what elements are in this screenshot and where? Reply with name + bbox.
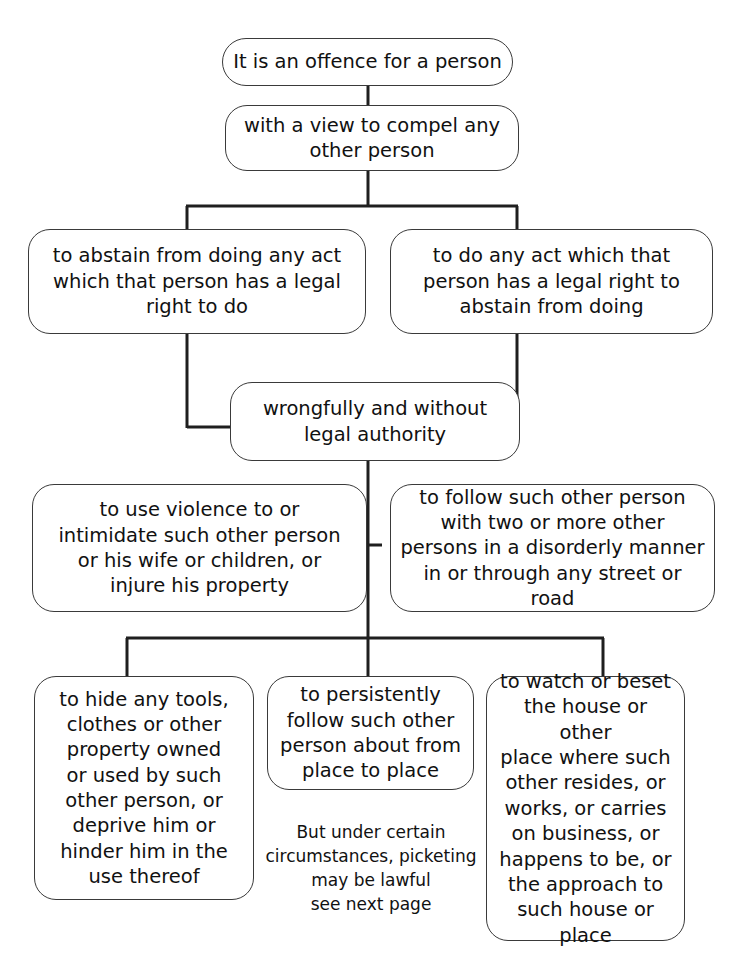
node-watch-or-beset[interactable]: to watch or beset the house or other pla… (486, 676, 685, 941)
node-use-violence[interactable]: to use violence to or intimidate such ot… (32, 484, 367, 612)
node-hide-tools[interactable]: to hide any tools, clothes or other prop… (34, 676, 254, 900)
node-abstain-from-doing-label: to abstain from doing any act which that… (53, 243, 341, 319)
node-persistently-follow-label: to persistently follow such other person… (280, 682, 461, 783)
node-offence[interactable]: It is an offence for a person (222, 38, 513, 86)
node-with-a-view-label: with a view to compel any other person (244, 113, 500, 164)
node-persistently-follow[interactable]: to persistently follow such other person… (267, 676, 474, 790)
flowchart-canvas: It is an offence for a person with a vie… (0, 0, 735, 973)
node-do-any-act-label: to do any act which that person has a le… (423, 243, 680, 319)
node-follow-with-two-or-more-label: to follow such other person with two or … (399, 485, 706, 612)
node-hide-tools-label: to hide any tools, clothes or other prop… (59, 687, 228, 890)
node-wrongfully-without-authority-label: wrongfully and without legal authority (263, 396, 487, 447)
node-use-violence-label: to use violence to or intimidate such ot… (58, 497, 340, 598)
node-wrongfully-without-authority[interactable]: wrongfully and without legal authority (230, 382, 520, 461)
node-do-any-act[interactable]: to do any act which that person has a le… (390, 229, 713, 334)
footnote-picketing: But under certain circumstances, picketi… (255, 820, 487, 917)
node-abstain-from-doing[interactable]: to abstain from doing any act which that… (28, 229, 366, 334)
node-offence-label: It is an offence for a person (233, 49, 502, 74)
node-with-a-view[interactable]: with a view to compel any other person (225, 105, 519, 171)
node-follow-with-two-or-more[interactable]: to follow such other person with two or … (390, 484, 715, 612)
node-watch-or-beset-label: to watch or beset the house or other pla… (495, 669, 676, 948)
